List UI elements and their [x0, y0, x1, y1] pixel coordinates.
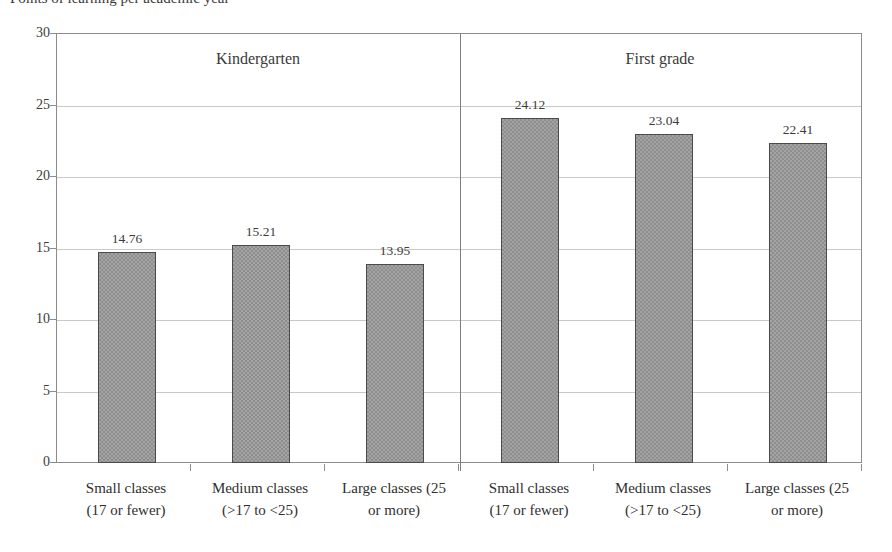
x-category-label-line1: Medium classes	[588, 477, 738, 499]
x-category-label-line2: (>17 to <25)	[588, 499, 738, 521]
x-category-label: Large classes (25or more)	[319, 477, 469, 521]
x-tick-mark	[324, 464, 325, 471]
panel-caption-first-grade: First grade	[530, 50, 790, 68]
y-tick-label: 25	[10, 98, 50, 112]
gridline	[57, 392, 861, 393]
gridline	[57, 249, 861, 250]
bar	[635, 134, 693, 463]
x-category-label: Medium classes(>17 to <25)	[588, 477, 738, 521]
y-tick-label: 5	[10, 384, 50, 398]
y-tick-label: 30	[10, 26, 50, 40]
bar-value-label: 14.76	[82, 232, 172, 246]
bar-value-label: 13.95	[350, 244, 440, 258]
gridline	[57, 320, 861, 321]
panel-caption-kindergarten: Kindergarten	[128, 50, 388, 68]
x-category-label-line1: Medium classes	[185, 477, 335, 499]
x-category-label-line2: or more)	[319, 499, 469, 521]
bar-value-label: 15.21	[216, 225, 306, 239]
x-tick-mark	[190, 464, 191, 471]
x-category-label-line1: Large classes (25	[722, 477, 872, 499]
x-category-label: Medium classes(>17 to <25)	[185, 477, 335, 521]
x-tick-mark	[861, 464, 862, 471]
x-category-label-line2: (>17 to <25)	[185, 499, 335, 521]
x-category-label: Large classes (25or more)	[722, 477, 872, 521]
bar	[98, 252, 156, 463]
x-tick-mark	[727, 464, 728, 471]
x-category-label-line2: or more)	[722, 499, 872, 521]
panel-divider	[460, 34, 461, 471]
bar	[501, 118, 559, 463]
x-category-label: Small classes(17 or fewer)	[454, 477, 604, 521]
gridline	[57, 106, 861, 107]
plot-area: Kindergarten First grade 14.7615.2113.95…	[56, 33, 862, 463]
bar-value-label: 22.41	[753, 123, 843, 137]
bar	[769, 143, 827, 463]
y-tick-label: 15	[10, 241, 50, 255]
x-tick-mark	[593, 464, 594, 471]
bar-value-label: 23.04	[619, 114, 709, 128]
x-category-label-line2: (17 or fewer)	[51, 499, 201, 521]
y-tick-label: 20	[10, 169, 50, 183]
bar	[232, 245, 290, 463]
y-tick-label: 0	[10, 455, 50, 469]
x-category-label-line1: Large classes (25	[319, 477, 469, 499]
x-tick-mark	[458, 464, 459, 471]
x-category-label: Small classes(17 or fewer)	[51, 477, 201, 521]
x-category-label-line1: Small classes	[51, 477, 201, 499]
gridline	[57, 177, 861, 178]
x-category-label-line1: Small classes	[454, 477, 604, 499]
bar	[366, 264, 424, 463]
chart-title: Points of learning per academic year	[10, 0, 230, 6]
bar-value-label: 24.12	[485, 98, 575, 112]
x-category-label-line2: (17 or fewer)	[454, 499, 604, 521]
y-tick-label: 10	[10, 312, 50, 326]
